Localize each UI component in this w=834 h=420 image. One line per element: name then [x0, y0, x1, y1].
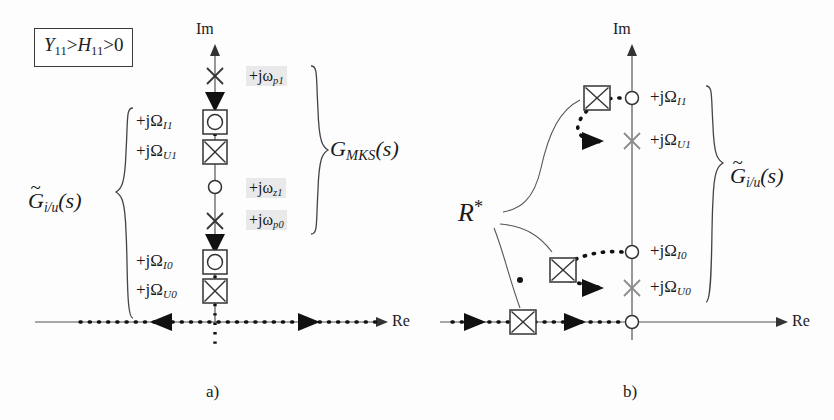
- panel-b-label-omega-U0-text: +jΩ: [650, 277, 677, 296]
- panel-b-label-omega-U1-sub: U1: [677, 138, 691, 150]
- condition-rel-1: >: [67, 34, 78, 55]
- condition-lhs-sub: 11: [55, 44, 67, 58]
- panel-a-tf-right-sub: MKS: [346, 147, 376, 163]
- panel-b-zero-I0-circle-icon: [626, 246, 639, 259]
- panel-a-transfer-function-label-right: GMKS(s): [330, 138, 399, 163]
- panel-b-label-omega-I0-sub: I0: [677, 249, 687, 261]
- panel-b-origin-circle-icon: [626, 316, 639, 329]
- panel-a-locus-arrow-right: [298, 313, 320, 331]
- condition-box: Y11>H11>0: [34, 28, 133, 67]
- panel-a-label-w-p0-sub: p0: [273, 219, 284, 230]
- panel-b-im-axis-label: Im: [613, 20, 631, 38]
- condition-mid: H: [77, 34, 91, 55]
- panel-a-label-w-p1-sub: p1: [273, 75, 284, 86]
- panel-a-tf-left-arg: (s): [58, 188, 81, 213]
- panel-b-re-axis-arrowhead: [776, 317, 788, 327]
- panel-a-label-w-z1: +jωz1: [246, 180, 286, 199]
- panel-a-label-omega-I1-sub: I1: [163, 119, 173, 131]
- panel-a-marker-boxed-cross-U1: [203, 140, 227, 164]
- panel-b-marker-boxed-cross-mid: [550, 258, 576, 282]
- panel-a-label-omega-U1-sub: U1: [163, 149, 177, 161]
- panel-b-transfer-function-label: G~i/u(s): [730, 165, 784, 190]
- panel-b-caption: b): [623, 382, 637, 402]
- panel-a-group: [35, 44, 388, 345]
- panel-a-label-omega-U0: +jΩU0: [136, 281, 177, 300]
- panel-a-label-omega-I1: +jΩI1: [136, 112, 173, 131]
- panel-a-label-w-p0-text: +jω: [249, 211, 273, 228]
- panel-b-label-omega-I0: +jΩI0: [650, 242, 687, 261]
- panel-b-tf-sub: i/u: [746, 175, 760, 190]
- panel-a-label-w-z1-text: +jω: [249, 179, 273, 196]
- panel-b-r-star-base: R: [458, 198, 474, 227]
- panel-a-label-omega-U1-text: +jΩ: [136, 141, 163, 160]
- panel-a-im-axis-label: Im: [196, 20, 214, 38]
- panel-a-label-w-p0: +jωp0: [246, 212, 287, 231]
- panel-b-leader-dot: [517, 277, 523, 283]
- panel-b-leader-line-mid: [500, 224, 552, 252]
- panel-b-locus-arrow-upper: [582, 132, 604, 150]
- panel-b-locus-arrow-real-2: [564, 313, 586, 331]
- panel-b-label-omega-I1: +jΩI1: [650, 88, 687, 107]
- condition-mid-sub: 11: [91, 44, 103, 58]
- panel-b-im-axis-arrowhead: [627, 44, 637, 56]
- panel-b-marker-boxed-cross-real: [510, 310, 536, 334]
- panel-a-im-axis-arrowhead: [210, 44, 220, 56]
- panel-a-label-omega-I1-text: +jΩ: [136, 111, 163, 130]
- panel-a-marker-boxed-circle-I0: [203, 250, 227, 274]
- panel-b-label-omega-I1-sub: I1: [677, 95, 687, 107]
- panel-a-tf-left-sub: i/u: [44, 200, 58, 215]
- panel-a-re-axis-arrowhead: [376, 317, 388, 327]
- panel-a-label-omega-U0-text: +jΩ: [136, 280, 163, 299]
- panel-b-tf-arg: (s): [760, 163, 783, 188]
- panel-a-brace-left: [116, 108, 133, 318]
- panel-b-label-omega-I0-text: +jΩ: [650, 241, 677, 260]
- panel-a-label-w-z1-sub: z1: [273, 187, 283, 198]
- panel-a-label-omega-I0: +jΩI0: [136, 252, 173, 271]
- panel-b-label-omega-U1: +jΩU1: [650, 131, 691, 150]
- panel-b-leader-line-upper: [503, 100, 580, 212]
- condition-rhs: 0: [114, 34, 124, 55]
- panel-a-marker-boxed-cross-U0: [203, 279, 227, 303]
- panel-b-label-omega-I1-text: +jΩ: [650, 87, 677, 106]
- panel-b-zero-I1-circle-icon: [626, 92, 639, 105]
- panel-b-tf-tilde: ~: [733, 154, 743, 173]
- panel-a-brace-right: [311, 66, 328, 234]
- panel-a-label-omega-I0-text: +jΩ: [136, 251, 163, 270]
- panel-b-locus-arrow-lower: [582, 279, 604, 297]
- panel-b-brace-right: [706, 86, 723, 302]
- panel-a-tf-right-arg: (s): [376, 136, 399, 161]
- panel-b-marker-boxed-cross-upper: [584, 86, 610, 110]
- panel-b-re-axis-label: Re: [792, 312, 810, 330]
- panel-a-marker-boxed-circle-I1: [203, 110, 227, 134]
- panel-b-label-omega-U0: +jΩU0: [650, 278, 691, 297]
- panel-a-label-omega-I0-sub: I0: [163, 259, 173, 271]
- panel-a-zero-wz1-circle-icon: [209, 181, 222, 194]
- panel-a-label-omega-U1: +jΩU1: [136, 142, 177, 161]
- panel-a-tf-right-base: G: [330, 136, 346, 161]
- panel-a-label-omega-U0-sub: U0: [163, 288, 177, 300]
- panel-a-label-w-p1: +jωp1: [246, 68, 287, 87]
- condition-rel-2: >: [103, 34, 114, 55]
- panel-a-locus-triangle-upper: [205, 92, 225, 112]
- panel-a-tf-left-tilde: ~: [31, 179, 41, 198]
- panel-b-label-omega-U0-sub: U0: [677, 285, 691, 297]
- panel-a-transfer-function-label-left: G~i/u(s): [28, 190, 82, 215]
- panel-a-re-axis-label: Re: [392, 312, 410, 330]
- panel-a-caption: a): [206, 382, 219, 402]
- panel-a-locus-arrow-left: [150, 313, 172, 331]
- panel-b-locus-arrow-real-1: [464, 313, 486, 331]
- condition-lhs: Y: [44, 34, 55, 55]
- panel-b-r-star-sup: *: [474, 197, 483, 217]
- panel-a-label-w-p1-text: +jω: [249, 67, 273, 84]
- panel-b-label-omega-U1-text: +jΩ: [650, 130, 677, 149]
- panel-b-leader-line-real: [494, 228, 520, 308]
- panel-b-group: [440, 44, 788, 340]
- panel-b-r-star-label: R*: [458, 198, 483, 226]
- figure-root: Y11>H11>0 Im Re +jΩI1 +jΩU1 +jΩI0 +jΩU0 …: [0, 0, 834, 420]
